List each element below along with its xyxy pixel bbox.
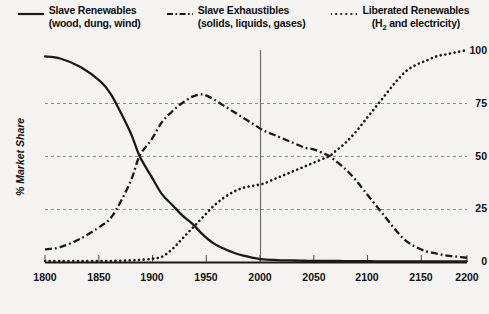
x-tick-2200: 2200 <box>445 272 489 283</box>
gridlines <box>45 104 467 210</box>
x-tick-1900: 1900 <box>130 272 174 283</box>
x-tick-1800: 1800 <box>23 272 67 283</box>
x-tick-2100: 2100 <box>345 272 389 283</box>
series-line-liberated-renewables <box>45 50 467 261</box>
x-tick-2150: 2150 <box>399 272 443 283</box>
x-tick-1850: 1850 <box>77 272 121 283</box>
series-line-slave-renewables <box>45 56 467 261</box>
series-line-slave-exhaustibles <box>45 94 467 257</box>
x-tick-1950: 1950 <box>184 272 228 283</box>
x-tick-2000: 2000 <box>238 272 282 283</box>
x-tick-2050: 2050 <box>292 272 336 283</box>
